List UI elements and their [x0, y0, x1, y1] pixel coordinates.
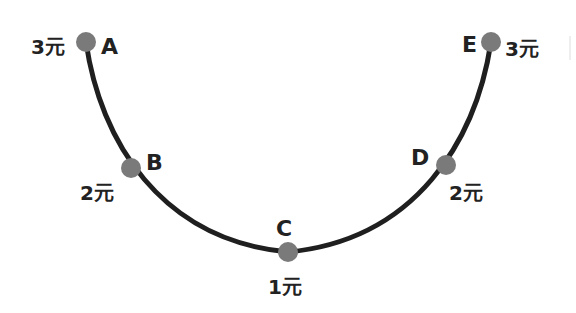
letter-b: B	[146, 150, 163, 175]
curve-diagram: A 3元 B 2元 C 1元 D 2元 E 3元	[0, 0, 576, 313]
point-c	[278, 242, 298, 262]
letter-e: E	[462, 32, 477, 57]
point-d	[436, 155, 456, 175]
price-d: 2元	[449, 181, 483, 205]
letter-a: A	[101, 34, 118, 59]
price-b: 2元	[80, 181, 114, 205]
letter-d: D	[411, 145, 429, 170]
price-e: 3元	[505, 37, 539, 61]
diagram-canvas: A 3元 B 2元 C 1元 D 2元 E 3元	[0, 0, 576, 313]
point-e	[481, 32, 501, 52]
price-a: 3元	[31, 35, 65, 59]
letter-c: C	[276, 216, 292, 241]
point-b	[121, 158, 141, 178]
price-c: 1元	[268, 275, 302, 299]
point-a	[76, 32, 96, 52]
